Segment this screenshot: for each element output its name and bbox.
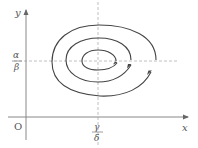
- beta-label: β: [13, 62, 19, 72]
- delta-label: δ: [94, 133, 99, 143]
- phase-portrait-diagram: y x O α β γ δ: [0, 0, 198, 148]
- spiral-trajectory: [52, 25, 156, 96]
- x-axis-label: x: [182, 122, 188, 133]
- y-axis-label: y: [14, 7, 21, 18]
- alpha-label: α: [13, 50, 19, 60]
- gamma-label: γ: [94, 122, 100, 132]
- origin-label: O: [14, 121, 22, 132]
